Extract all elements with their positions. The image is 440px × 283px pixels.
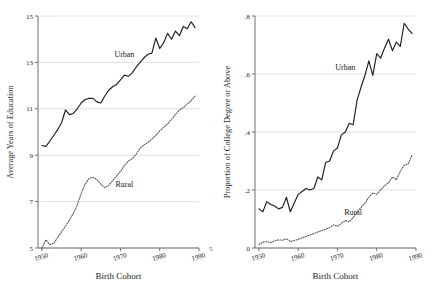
series-label-urban: Urban xyxy=(335,63,355,72)
series-label-rural: Rural xyxy=(115,180,134,189)
y-tick-label-3: .6 xyxy=(245,71,251,79)
x-tick-label-3: 1980 xyxy=(368,251,384,263)
x-axis-title: Birth Cohort xyxy=(96,271,142,281)
x-tick-label-0: 1950 xyxy=(251,251,267,263)
y-tick-label-0: 0 xyxy=(247,245,251,253)
x-tick-label-1: 1960 xyxy=(290,251,306,263)
series-line-rural xyxy=(259,155,412,244)
x-tick-label-1: 1960 xyxy=(73,251,89,263)
series-label-rural: Rural xyxy=(344,208,363,217)
x-tick-label-0: 1950 xyxy=(34,251,50,263)
y-tick-label-3: 11 xyxy=(26,105,33,113)
y-tick-label-2: .4 xyxy=(245,129,251,137)
y-axis-title: Proportion of College Degree or Above xyxy=(223,66,232,199)
series-line-urban xyxy=(42,22,195,147)
y-tick-label-1: 7 xyxy=(30,198,34,206)
x-tick-label-4: 1990 xyxy=(408,251,424,263)
series-label-urban: Urban xyxy=(114,50,134,59)
y-tick-label-2: 9 xyxy=(30,152,34,160)
chart-svg-right: 0.2.4.6.819501960197019801990UrbanRuralB… xyxy=(220,0,440,283)
chart-svg-left: 57911131519501960197019801990UrbanRuralB… xyxy=(0,0,220,283)
x-tick-label-3: 1980 xyxy=(151,251,167,263)
x-tick-label-2: 1970 xyxy=(329,251,345,263)
y-tick-label-5: 15 xyxy=(26,13,34,21)
series-line-urban xyxy=(259,23,412,212)
figure-container: 57911131519501960197019801990UrbanRuralB… xyxy=(0,0,440,283)
x-tick-label-2: 1970 xyxy=(112,251,128,263)
y-tick-label-0: 5 xyxy=(30,245,34,253)
y-tick-label-4: 13 xyxy=(26,59,34,67)
x-tick-label-4: 1990 xyxy=(191,251,207,263)
y-tick-label-1: .2 xyxy=(245,187,251,195)
series-line-rural xyxy=(42,96,195,248)
chart-panel-right: 0.2.4.6.819501960197019801990UrbanRuralB… xyxy=(220,0,440,283)
y-axis-title: Average Years of Education xyxy=(6,85,15,179)
x-axis-title: Birth Cohort xyxy=(313,271,359,281)
y-tick-label-4: .8 xyxy=(245,13,251,21)
chart-panel-left: 57911131519501960197019801990UrbanRuralB… xyxy=(0,0,220,283)
edge-label-right: 5 xyxy=(209,245,213,253)
